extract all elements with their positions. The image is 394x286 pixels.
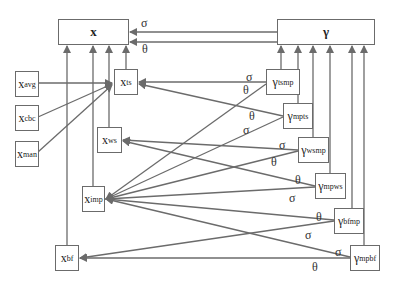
node-x-avg: xavg [15,71,39,97]
node-x-cbc: xcbc [15,105,39,131]
label-mpbf-sigma: σ [335,246,341,258]
edge-gbfmp-ximp [106,199,334,220]
edge-gtsmp-ximp [106,84,266,199]
node-x-imp: ximp [82,186,105,212]
node-gamma-mpws: γmpws [315,173,346,199]
node-gamma-mpbf: γmpbf [350,245,380,271]
label-mpws-theta: θ [295,174,301,186]
node-gamma-mpts: γmpts [283,103,313,129]
label-mpts-sigma: σ [243,124,249,136]
label-mpws-sigma: σ [289,192,295,204]
label-wsmp-theta: θ [271,156,277,168]
label-tsmp-sigma: σ [246,71,252,83]
node-x-bf: xbf [55,245,79,271]
label-bfmp-theta: θ [316,211,322,223]
node-gamma-wsmp: γwsmp [298,137,329,163]
label-bfmp-sigma: σ [305,229,311,241]
node-gamma-tsmp: γtsmp [266,69,300,95]
node-x-man: xman [15,141,39,167]
label-top-sigma: σ [141,17,147,29]
edge-gmpws-xws [123,141,315,186]
edge-gmpts-xts [139,84,283,116]
label-mpbf-theta: θ [312,261,318,273]
label-tsmp-theta: θ [243,84,249,96]
node-x: x [58,19,129,45]
node-gamma-bfmp: γbfmp [334,208,364,234]
label-top-theta: θ [142,43,148,55]
edge-gwsmp-xws [123,140,298,150]
edge-gmpws-ximp [106,187,315,199]
node-gamma: γ [277,19,375,45]
node-x-ts: xts [114,69,138,95]
diagram-canvas: x γ xavg xcbc xman xts xws ximp xbf γtsm… [0,0,394,286]
edge-gbfmp-xbf [80,221,334,258]
label-mpts-theta: θ [249,110,255,122]
label-wsmp-sigma: σ [279,139,285,151]
edge-xcbc-xts [38,84,112,117]
node-x-ws: xws [97,127,122,153]
